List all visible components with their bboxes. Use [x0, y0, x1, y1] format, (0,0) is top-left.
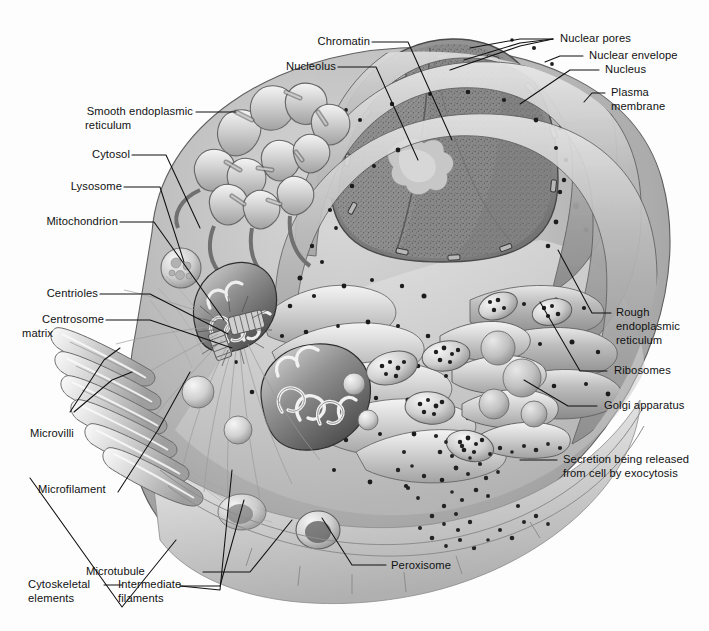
label-plasma-membrane-line1: Plasma: [611, 86, 649, 100]
label-secretion-line2: from cell by exocytosis: [563, 467, 678, 481]
label-cytosol: Cytosol: [20, 148, 130, 162]
label-golgi-apparatus: Golgi apparatus: [604, 399, 684, 413]
label-plasma-membrane-line2: membrane: [611, 100, 665, 114]
label-microtubule: Microtubule: [86, 565, 145, 579]
label-centrioles: Centrioles: [10, 287, 98, 301]
label-nuclear-pores: Nuclear pores: [560, 32, 631, 46]
label-nucleolus: Nucleolus: [206, 60, 336, 74]
label-smooth-er-line1: Smooth endoplasmic: [60, 105, 193, 119]
label-lysosome: Lysosome: [20, 180, 122, 194]
label-cytoskeletal-elements-line2: elements: [28, 592, 74, 606]
label-nuclear-envelope: Nuclear envelope: [589, 49, 678, 63]
label-intermediate-filaments-line1: Intermediate: [118, 578, 181, 592]
animal-cell-illustration: [0, 0, 709, 631]
label-rough-er-line3: reticulum: [616, 334, 662, 348]
label-rough-er-line2: endoplasmic: [616, 320, 680, 334]
label-microfilament: Microfilament: [38, 483, 106, 497]
label-cytoskeletal-elements-line1: Cytoskeletal: [28, 578, 90, 592]
label-nucleus: Nucleus: [605, 63, 646, 77]
label-ribosomes: Ribosomes: [614, 364, 671, 378]
label-mitochondrion: Mitochondrion: [10, 215, 118, 229]
label-smooth-er-line2: reticulum: [85, 119, 131, 133]
label-chromatin: Chromatin: [240, 35, 370, 49]
label-intermediate-filaments-line2: filaments: [118, 592, 164, 606]
cell-diagram-figure: Chromatin Nucleolus Nuclear pores Nuclea…: [0, 0, 709, 631]
label-peroxisome: Peroxisome: [391, 559, 451, 573]
label-rough-er-line1: Rough: [616, 306, 649, 320]
label-microvilli: Microvilli: [30, 427, 74, 441]
lysosome: [161, 248, 201, 288]
label-secretion-line1: Secretion being released: [563, 453, 689, 467]
label-centrosome-matrix-line1: Centrosome: [10, 313, 104, 327]
label-centrosome-matrix-line2: matrix: [22, 327, 53, 341]
